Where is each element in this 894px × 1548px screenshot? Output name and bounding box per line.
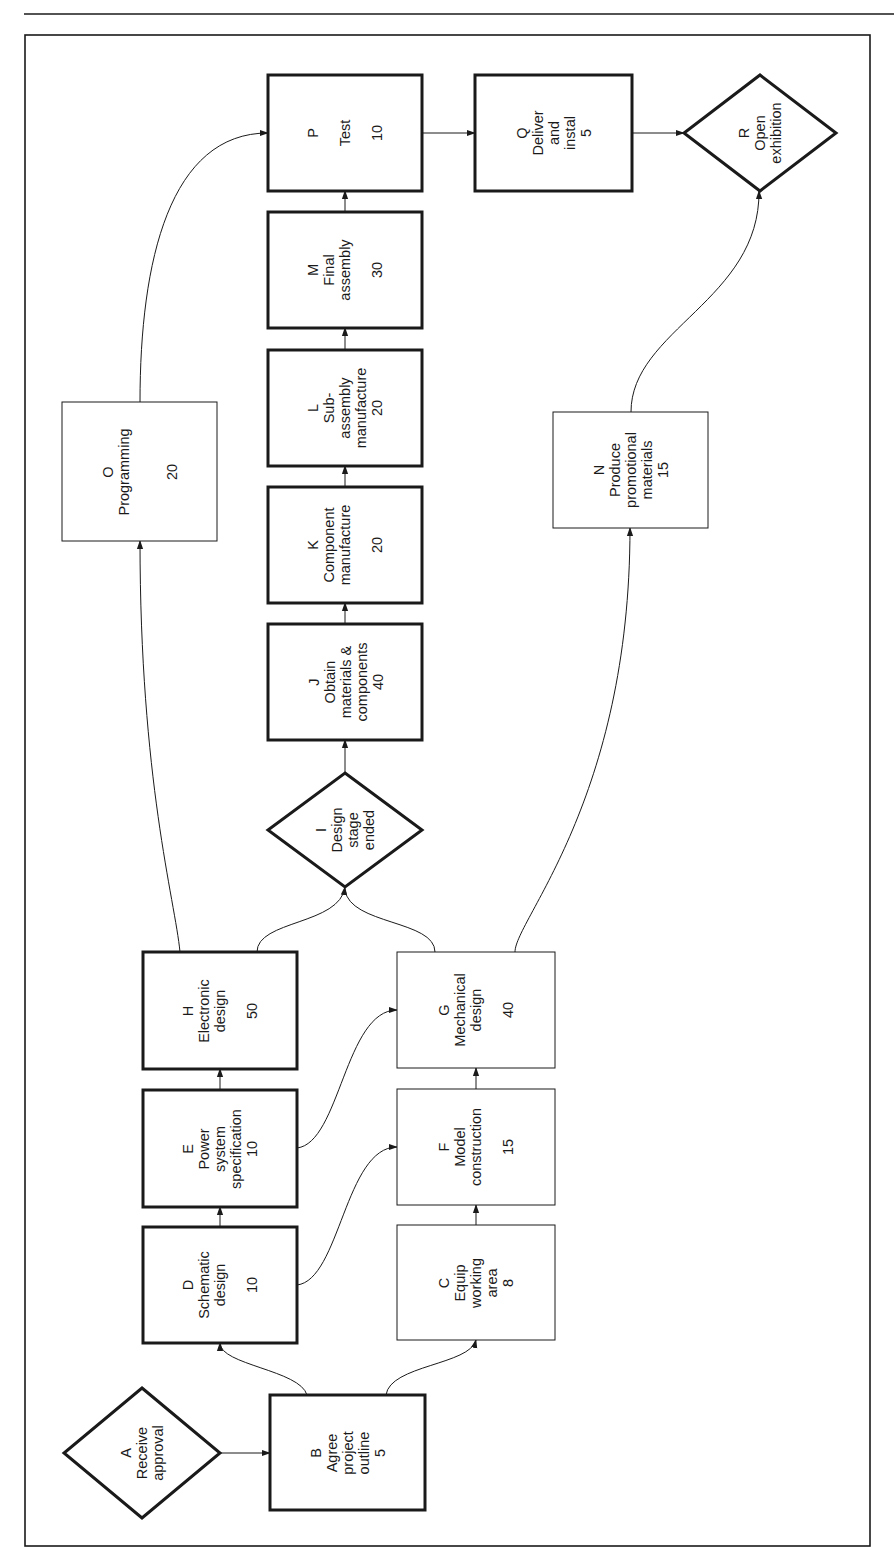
- edge-G-N: [515, 528, 630, 952]
- node-F-box[interactable]: [397, 1089, 555, 1205]
- node-K-box[interactable]: [268, 487, 422, 603]
- network-diagram: [0, 0, 894, 1548]
- node-C-box[interactable]: [397, 1225, 555, 1340]
- node-A-diamond[interactable]: [64, 1388, 220, 1518]
- edge-B-D: [220, 1343, 307, 1395]
- node-N-box[interactable]: [553, 412, 708, 528]
- node-B-box[interactable]: [270, 1395, 425, 1510]
- node-R-diamond[interactable]: [684, 75, 836, 191]
- node-L-box[interactable]: [268, 350, 422, 466]
- edge-B-C: [386, 1340, 476, 1395]
- edge-E-G: [297, 1010, 397, 1148]
- edge-G-I: [345, 890, 435, 952]
- edge-N-R: [631, 191, 759, 412]
- edge-D-F: [297, 1147, 397, 1285]
- node-D-box[interactable]: [143, 1227, 297, 1343]
- nodes: [62, 75, 836, 1518]
- node-E-box[interactable]: [143, 1090, 297, 1207]
- node-Q-box[interactable]: [475, 75, 632, 191]
- node-M-box[interactable]: [268, 212, 422, 328]
- node-I-diamond[interactable]: [268, 773, 422, 887]
- edge-H-I: [257, 887, 345, 952]
- node-H-box[interactable]: [143, 952, 297, 1069]
- edge-H-O: [140, 541, 180, 952]
- node-J-box[interactable]: [268, 624, 422, 740]
- node-P-box[interactable]: [268, 75, 422, 191]
- edge-O-P: [140, 133, 268, 402]
- node-O-box[interactable]: [62, 402, 217, 541]
- node-G-box[interactable]: [397, 952, 555, 1068]
